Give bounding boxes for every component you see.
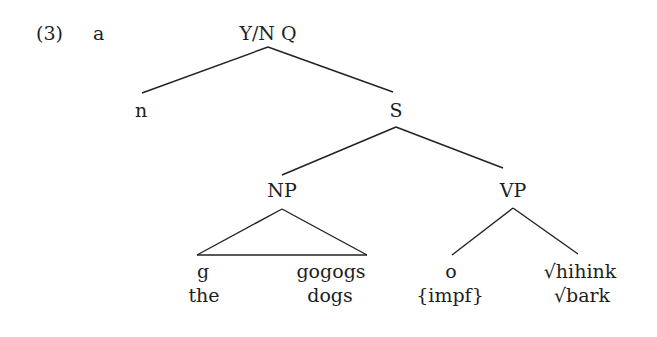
leaf-form-o: o [445, 260, 456, 282]
leaf-gloss-dogs: dogs [307, 284, 353, 306]
edge-root-n [142, 47, 268, 93]
edge-vp-root [513, 208, 578, 254]
np-triangle-right [282, 209, 367, 255]
edge-vp-o [452, 208, 513, 255]
example-number: (3) [36, 22, 63, 44]
node-s: S [389, 99, 402, 121]
leaf-gloss-impf: {impf} [416, 284, 483, 306]
leaf-gloss-bark: √bark [554, 284, 610, 306]
leaf-form-gogogs: gogogs [296, 260, 365, 282]
node-vp: VP [500, 179, 527, 201]
node-np: NP [267, 179, 296, 201]
leaf-form-g: g [197, 260, 209, 282]
edge-s-np [282, 127, 396, 175]
node-root-ynq: Y/N Q [239, 22, 296, 44]
edge-root-s [268, 47, 393, 92]
node-n: n [135, 99, 147, 121]
leaf-form-hihink: √hihink [544, 260, 616, 282]
leaf-gloss-the: the [188, 284, 219, 306]
edge-s-vp [396, 127, 503, 168]
np-triangle-left [197, 209, 282, 255]
example-letter: a [93, 22, 104, 44]
